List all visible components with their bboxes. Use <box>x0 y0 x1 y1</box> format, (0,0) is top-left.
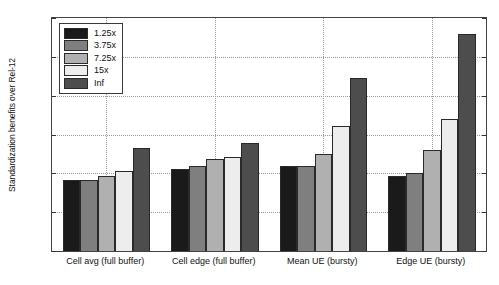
legend-swatch-icon <box>64 65 88 76</box>
bar <box>206 159 224 251</box>
bar <box>115 171 133 251</box>
x-axis-tick-label: Edge UE (bursty) <box>396 256 465 266</box>
legend-item: 7.25x <box>64 52 116 65</box>
legend: 1.25x3.75x7.25x15xInf <box>59 23 123 94</box>
legend-swatch-icon <box>64 28 88 39</box>
bar <box>80 180 98 251</box>
legend-item-label: 1.25x <box>94 29 116 38</box>
plot-area: 1.25x3.75x7.25x15xInf <box>51 17 487 252</box>
bar <box>406 173 424 251</box>
bar-group <box>171 18 259 251</box>
bar <box>280 166 298 251</box>
bar <box>332 126 350 251</box>
bar <box>224 157 242 251</box>
legend-item: 15x <box>64 65 116 78</box>
bar <box>63 180 81 251</box>
x-axis-tick-label: Cell edge (full buffer) <box>172 256 255 266</box>
bar-group <box>280 18 368 251</box>
legend-item: Inf <box>64 77 116 90</box>
legend-item-label: 3.75x <box>94 41 116 50</box>
bar <box>350 78 368 251</box>
x-axis-tick-label: Cell avg (full buffer) <box>66 256 144 266</box>
legend-item-label: 7.25x <box>94 54 116 63</box>
legend-item-label: Inf <box>94 79 104 88</box>
bar <box>458 34 476 251</box>
y-axis-title: Standardization benefits over Rel-12 <box>4 0 20 250</box>
bar <box>241 143 259 251</box>
bar <box>297 166 315 251</box>
legend-item-label: 15x <box>94 66 109 75</box>
bar <box>189 166 207 251</box>
bar <box>423 150 441 251</box>
legend-swatch-icon <box>64 53 88 64</box>
bar <box>388 176 406 251</box>
bar <box>171 169 189 251</box>
bar <box>133 148 151 251</box>
legend-swatch-icon <box>64 40 88 51</box>
legend-swatch-icon <box>64 78 88 89</box>
bar <box>441 119 459 251</box>
bar <box>315 154 333 251</box>
y-axis-tick-mark <box>482 251 486 252</box>
y-axis-title-text: Standardization benefits over Rel-12 <box>7 58 17 192</box>
bar <box>98 176 116 251</box>
legend-item: 1.25x <box>64 27 116 40</box>
x-axis-tick-label: Mean UE (bursty) <box>287 256 358 266</box>
y-axis-tick-mark <box>52 251 56 252</box>
legend-item: 3.75x <box>64 40 116 53</box>
bar-group <box>388 18 476 251</box>
bar-chart-figure: Standardization benefits over Rel-12 1.2… <box>0 0 499 285</box>
